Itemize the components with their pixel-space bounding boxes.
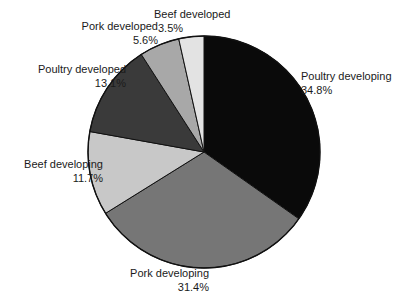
slice-label-value: 11.7% bbox=[0, 172, 103, 186]
slice-label-pork-developing: Pork developing 31.4% bbox=[72, 267, 209, 294]
slice-label-name: Poultry developed bbox=[0, 63, 126, 77]
slice-label-poultry-developing: Poultry developing 34.8% bbox=[301, 70, 409, 97]
slice-label-name: Beef developed bbox=[154, 8, 264, 22]
slice-label-value: 13.1% bbox=[0, 77, 126, 91]
slice-label-beef-developing: Beef developing 11.7% bbox=[0, 158, 103, 185]
pie-chart-figure: Beef developed 3.5% Pork developed 5.6% … bbox=[0, 0, 409, 303]
slice-label-value: 3.5% bbox=[154, 22, 264, 36]
slice-label-name: Beef developing bbox=[0, 158, 103, 172]
slice-label-pork-developed: Pork developed 5.6% bbox=[10, 20, 158, 47]
slice-label-name: Pork developed bbox=[10, 20, 158, 34]
slice-label-name: Pork developing bbox=[72, 267, 209, 281]
slice-label-name: Poultry developing bbox=[301, 70, 409, 84]
slice-label-value: 34.8% bbox=[301, 84, 409, 98]
slice-label-poultry-developed: Poultry developed 13.1% bbox=[0, 63, 126, 90]
slice-label-value: 5.6% bbox=[10, 34, 158, 48]
slice-label-value: 31.4% bbox=[72, 281, 209, 295]
slice-label-beef-developed: Beef developed 3.5% bbox=[154, 8, 264, 35]
